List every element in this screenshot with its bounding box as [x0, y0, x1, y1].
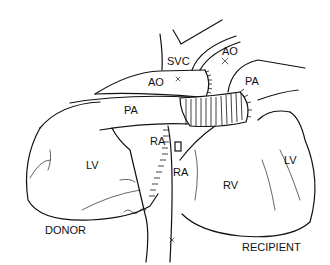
label-pa-recipient: PA [245, 76, 259, 87]
label-ra-upper: RA [150, 136, 165, 147]
label-donor: DONOR [45, 225, 86, 236]
label-pa-donor: PA [124, 105, 138, 116]
label-svc: SVC [167, 56, 190, 67]
label-rv: RV [223, 180, 238, 191]
label-recipient: RECIPIENT [242, 242, 301, 253]
label-ao-recipient: AO [222, 46, 238, 57]
label-lv-donor: LV [86, 160, 99, 171]
label-ao-donor: AO [148, 77, 164, 88]
label-ra-lower: RA [173, 167, 188, 178]
graft-conduit [180, 89, 252, 127]
label-lv-recipient: LV [284, 155, 297, 166]
recipient-heart [180, 111, 315, 237]
